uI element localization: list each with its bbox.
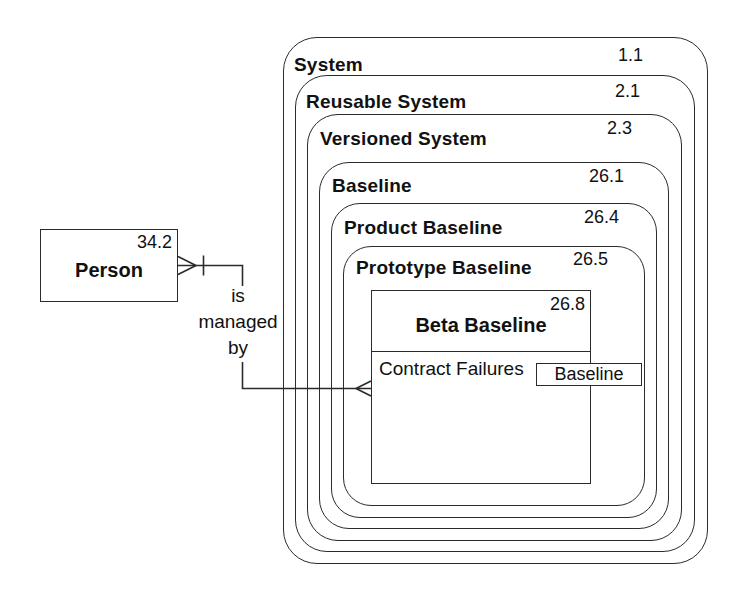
reference-label: Baseline (554, 364, 623, 385)
box-label: Baseline (332, 175, 412, 197)
box-number: 26.1 (589, 166, 624, 187)
crows-foot-person (178, 257, 196, 275)
class-number: 26.8 (550, 294, 585, 315)
box-label: Reusable System (306, 91, 466, 113)
class-header: 26.8 Beta Baseline (372, 291, 590, 352)
class-box-beta-baseline: 26.8 Beta Baseline Contract Failures (371, 290, 591, 484)
box-number: 1.1 (618, 45, 643, 66)
box-number: 26.5 (573, 249, 608, 270)
box-label: System (294, 54, 363, 76)
relationship-label: is managed by (184, 283, 292, 361)
box-number: 2.1 (615, 81, 640, 102)
box-label: Versioned System (320, 128, 487, 150)
entity-person: 34.2 Person (40, 229, 178, 302)
attribute-contract-failures: Contract Failures (379, 358, 524, 380)
box-label: Product Baseline (344, 217, 502, 239)
box-number: 2.3 (607, 118, 632, 139)
class-title: Beta Baseline (415, 314, 546, 337)
entity-number: 34.2 (137, 232, 172, 253)
box-label: Prototype Baseline (356, 257, 532, 279)
entity-name: Person (75, 259, 143, 282)
box-number: 26.4 (584, 207, 619, 228)
diagram-canvas: 1.1 System 2.1 Reusable System 2.3 Versi… (0, 0, 739, 597)
reference-box-baseline: Baseline (536, 363, 642, 386)
